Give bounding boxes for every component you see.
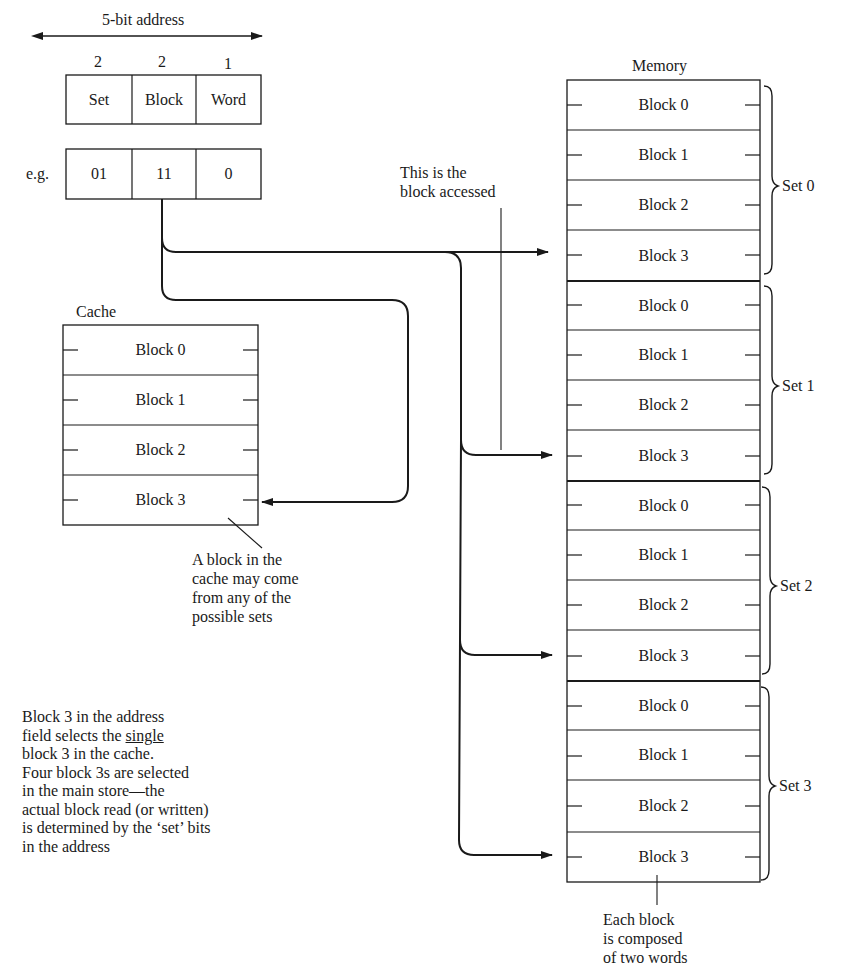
memory-set3-block-3: Block 3 xyxy=(567,832,760,882)
memory-set1-block-1: Block 1 xyxy=(567,330,760,380)
cache-block-1: Block 1 xyxy=(63,375,258,425)
set-1-label: Set 1 xyxy=(782,376,814,396)
cache-block-3: Block 3 xyxy=(63,475,258,525)
field-set: Set xyxy=(66,75,132,124)
example-block-value: 11 xyxy=(132,149,196,199)
memory-set2-block-1: Block 1 xyxy=(567,530,760,580)
memory-set0-block-1: Block 1 xyxy=(567,130,760,180)
block-accessed-label: This is the block accessed xyxy=(400,163,496,201)
explanation-note: Block 3 in the address field selects the… xyxy=(22,708,211,856)
block-words-note: Each block is composed of two words xyxy=(603,910,687,967)
memory-set0-block-2: Block 2 xyxy=(567,180,760,230)
cache-origin-note: A block in the cache may come from any o… xyxy=(192,550,299,626)
memory-set3-block-2: Block 2 xyxy=(567,780,760,832)
memory-set3-block-1: Block 1 xyxy=(567,730,760,780)
set-3-label: Set 3 xyxy=(779,776,811,796)
memory-set2-block-2: Block 2 xyxy=(567,580,760,630)
field-word: Word xyxy=(196,75,261,124)
memory-set2-block-0: Block 0 xyxy=(567,481,760,530)
example-label: e.g. xyxy=(26,164,49,184)
memory-set0-block-3: Block 3 xyxy=(567,230,760,281)
cache-title: Cache xyxy=(76,302,116,322)
memory-set0-block-0: Block 0 xyxy=(567,80,760,130)
memory-set1-block-2: Block 2 xyxy=(567,380,760,430)
memory-title: Memory xyxy=(632,56,687,76)
address-title: 5-bit address xyxy=(102,10,184,30)
memory-set1-block-0: Block 0 xyxy=(567,281,760,330)
set-0-label: Set 0 xyxy=(782,176,814,196)
cache-block-2: Block 2 xyxy=(63,425,258,475)
bit-count-word: 1 xyxy=(224,54,232,74)
memory-set2-block-3: Block 3 xyxy=(567,630,760,681)
cache-block-0: Block 0 xyxy=(63,325,258,375)
memory-set1-block-3: Block 3 xyxy=(567,430,760,481)
example-word-value: 0 xyxy=(196,149,261,199)
set-2-label: Set 2 xyxy=(780,576,812,596)
underlined-single: single xyxy=(126,727,164,744)
example-set-value: 01 xyxy=(66,149,132,199)
bit-count-set: 2 xyxy=(94,52,102,72)
bit-count-block: 2 xyxy=(158,52,166,72)
field-block: Block xyxy=(132,75,196,124)
memory-set3-block-0: Block 0 xyxy=(567,681,760,730)
